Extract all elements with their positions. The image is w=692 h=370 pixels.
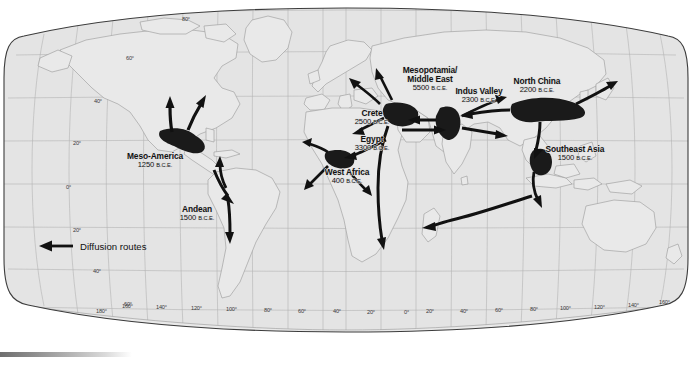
map-legend: Diffusion routes [38, 240, 146, 252]
page-edge-shadow [0, 352, 132, 357]
land-florida [206, 128, 214, 142]
land-srilanka [461, 176, 468, 185]
left-arrow-icon [38, 240, 74, 252]
legend-label: Diffusion routes [80, 241, 146, 252]
screenshot-root: 80° 60° 40° 20° 0° 20° 40° 60° 180° 160°… [0, 0, 692, 370]
globe-body [0, 0, 692, 340]
world-map-svg [0, 0, 692, 340]
world-map [0, 0, 692, 340]
